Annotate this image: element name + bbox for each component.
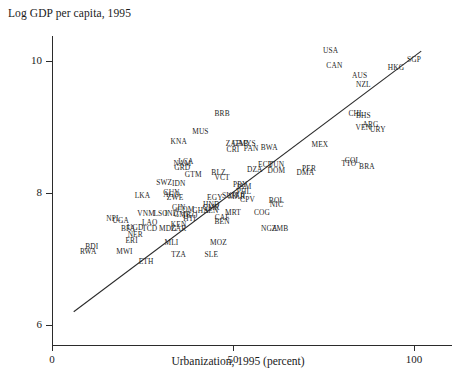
data-point-label: BEN [215, 218, 230, 225]
data-point-label: LKA [135, 192, 151, 199]
data-point-label: MWI [116, 249, 132, 256]
data-point-label: MOZ [210, 239, 227, 246]
data-point-label: TCD [142, 226, 157, 233]
data-point-label: MEX [311, 142, 328, 149]
data-point-label: USA [323, 47, 338, 54]
data-point-label: VCT [215, 174, 230, 181]
data-point-label: IDN [172, 181, 186, 188]
scatter-chart: Log GDP per capita, 1995 10 8 6 0 50 100… [0, 0, 476, 375]
x-axis-title: Urbanization, 1995 (percent) [0, 355, 476, 367]
data-point-label: BWA [261, 144, 278, 151]
data-point-label: CAN [326, 63, 342, 70]
data-point-label: MLI [164, 239, 178, 246]
data-point-label: VNM [137, 210, 155, 217]
data-point-label: SGP [407, 56, 421, 63]
data-point-label: COG [254, 209, 270, 216]
data-point-label: AUS [352, 72, 367, 79]
data-point-label: ETH [139, 259, 154, 266]
data-point-labels: USACANAUSNZLHKGSGPBRBMUSKNAMEXZAFGABMYSC… [0, 0, 476, 375]
data-point-label: HKG [388, 64, 404, 71]
data-point-label: ZAR [171, 225, 186, 232]
data-point-label: NIC [270, 201, 283, 208]
data-point-label: BRB [215, 110, 230, 117]
data-point-label: NZL [356, 81, 371, 88]
data-point-label: TTO [341, 160, 356, 167]
data-point-label: BRA [359, 163, 375, 170]
data-point-label: VEN [355, 125, 371, 132]
data-point-label: ERI [125, 237, 137, 244]
data-point-label: TZA [171, 251, 186, 258]
data-point-label: RWA [80, 249, 96, 256]
data-point-label: MUS [192, 129, 208, 136]
data-point-label: SWZ [156, 179, 172, 186]
data-point-label: DOM [268, 168, 286, 175]
data-point-label: ZWE [167, 195, 183, 202]
data-point-label: PAN [244, 145, 259, 152]
data-point-label: BHS [356, 112, 371, 119]
data-point-label: DZA [247, 166, 263, 173]
data-point-label: CRI [227, 146, 240, 153]
data-point-label: GTM [185, 171, 202, 178]
data-point-label: CPV [240, 196, 255, 203]
data-point-label: DMA [297, 169, 315, 176]
data-point-label: URY [370, 127, 386, 134]
data-point-label: ZMB [272, 226, 288, 233]
data-point-label: KNA [170, 138, 186, 145]
data-point-label: SLE [204, 251, 218, 258]
